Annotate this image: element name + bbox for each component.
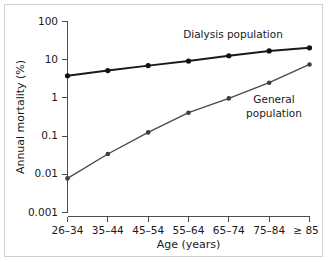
- x-axis-ticks: [68, 217, 310, 223]
- x-tick-label: 65–74: [213, 224, 245, 236]
- data-point: [267, 80, 272, 85]
- y-tick-label: 10: [45, 53, 58, 65]
- y-axis-title: Annual mortality (%): [14, 60, 27, 174]
- figure-frame: 100 10 1 0.1 0.01 0.001 26–34 35–44 45–5…: [4, 4, 323, 257]
- data-point: [307, 45, 312, 50]
- y-tick-label: 0.01: [35, 167, 58, 179]
- data-point: [105, 68, 110, 73]
- x-axis-tick-labels: 26–34 35–44 45–54 55–64 65–74 75–84 ≥ 85: [52, 224, 319, 236]
- general-population-annotation-line1: General: [253, 93, 294, 105]
- data-point: [146, 130, 151, 135]
- mortality-by-age-log-chart: 100 10 1 0.1 0.01 0.001 26–34 35–44 45–5…: [5, 5, 322, 256]
- y-tick-label: 0.001: [28, 206, 58, 218]
- data-point: [186, 110, 191, 115]
- general-population-annotation-line2: population: [246, 107, 302, 119]
- data-point: [146, 63, 151, 68]
- data-point: [226, 53, 231, 58]
- data-point: [267, 48, 272, 53]
- data-point: [307, 62, 312, 67]
- y-axis-tick-labels: 100 10 1 0.1 0.01 0.001: [28, 15, 58, 218]
- dialysis-population-annotation: Dialysis population: [183, 28, 283, 40]
- x-tick-label: 75–84: [253, 224, 285, 236]
- data-point: [106, 152, 111, 157]
- x-tick-label: 45–54: [132, 224, 164, 236]
- x-tick-label: 35–44: [92, 224, 124, 236]
- data-point: [65, 176, 70, 181]
- y-tick-label: 1: [51, 91, 58, 103]
- data-point: [227, 96, 232, 101]
- data-point: [65, 73, 70, 78]
- x-tick-label: 26–34: [52, 224, 84, 236]
- general-population-line: [68, 64, 310, 178]
- y-tick-label: 0.1: [41, 129, 58, 141]
- x-axis-title: Age (years): [157, 238, 221, 251]
- series-dialysis-population: [65, 45, 312, 78]
- y-tick-label: 100: [38, 15, 58, 27]
- x-tick-label: 55–64: [173, 224, 205, 236]
- y-axis-ticks: [62, 22, 68, 213]
- x-tick-label: ≥ 85: [293, 224, 319, 236]
- figure-container: 100 10 1 0.1 0.01 0.001 26–34 35–44 45–5…: [0, 0, 328, 262]
- data-point: [186, 58, 191, 63]
- series-general-population: [65, 62, 312, 181]
